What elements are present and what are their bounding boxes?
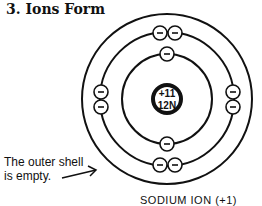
- outer-shell: [82, 14, 252, 184]
- outer-shell-annotation: The outer shell is empty.: [4, 155, 83, 183]
- nucleus-charge: +11: [159, 88, 176, 99]
- nucleus-neutrons: 12N: [158, 100, 176, 111]
- diagram-caption: SODIUM ION (+1): [140, 194, 237, 206]
- inner-shell: [122, 54, 212, 144]
- electrons: [94, 26, 240, 172]
